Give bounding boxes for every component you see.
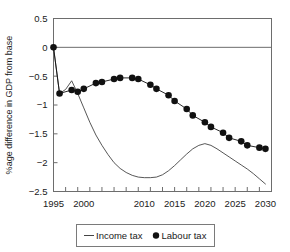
data-point-marker bbox=[99, 79, 106, 86]
data-point-marker bbox=[117, 75, 124, 82]
data-point-marker bbox=[183, 106, 190, 113]
data-point-marker bbox=[256, 144, 263, 151]
y-tick-label: −1 bbox=[37, 99, 48, 110]
legend-dot-icon bbox=[153, 232, 159, 238]
data-point-marker bbox=[129, 75, 136, 82]
data-point-marker bbox=[171, 98, 178, 105]
series-markers-labour-tax bbox=[50, 44, 269, 152]
series-line-labour-tax bbox=[54, 47, 266, 149]
data-point-marker bbox=[80, 86, 87, 93]
data-point-marker bbox=[165, 92, 172, 99]
legend-label-income-tax: Income tax bbox=[96, 230, 143, 241]
gdp-difference-line-chart: 0.50−0.5−1−1.5−2−2.5 1995200020102015202… bbox=[0, 0, 290, 252]
data-point-marker bbox=[74, 88, 81, 95]
x-tick-label: 2015 bbox=[164, 198, 185, 209]
x-tick-label: 2000 bbox=[73, 198, 94, 209]
data-point-marker bbox=[226, 135, 233, 142]
data-point-marker bbox=[50, 44, 57, 51]
data-point-marker bbox=[147, 82, 154, 89]
data-point-marker bbox=[238, 138, 245, 145]
plot-frame bbox=[54, 19, 272, 192]
x-tick-label: 2025 bbox=[225, 198, 246, 209]
data-point-marker bbox=[56, 90, 63, 97]
data-point-marker bbox=[244, 142, 251, 149]
data-point-marker bbox=[262, 146, 269, 153]
series-line-income-tax bbox=[54, 47, 266, 184]
data-point-marker bbox=[93, 80, 100, 87]
x-tick-label: 2010 bbox=[134, 198, 155, 209]
y-tick-label: 0.5 bbox=[34, 13, 47, 24]
y-tick-label: 0 bbox=[42, 42, 47, 53]
data-point-marker bbox=[68, 87, 75, 94]
x-tick-label: 2030 bbox=[255, 198, 276, 209]
y-axis-title: %age difference in GDP from base bbox=[4, 36, 14, 175]
y-tick-label: −0.5 bbox=[29, 71, 48, 82]
x-tick-label: 2020 bbox=[194, 198, 215, 209]
data-point-marker bbox=[202, 119, 209, 126]
data-point-marker bbox=[153, 86, 160, 93]
x-tick-label: 1995 bbox=[43, 198, 64, 209]
y-tick-label: −1.5 bbox=[29, 128, 48, 139]
data-point-marker bbox=[208, 124, 215, 131]
chart-legend: Income tax Labour tax bbox=[77, 225, 215, 247]
data-point-marker bbox=[135, 76, 142, 83]
y-tick-label: −2.5 bbox=[29, 186, 48, 197]
chart-figure: 0.50−0.5−1−1.5−2−2.5 1995200020102015202… bbox=[0, 0, 290, 252]
legend-label-labour-tax: Labour tax bbox=[162, 230, 207, 241]
x-axis: 1995200020102015202020252030 bbox=[43, 187, 276, 209]
data-point-marker bbox=[111, 76, 118, 83]
data-point-marker bbox=[220, 129, 227, 136]
data-point-marker bbox=[189, 112, 196, 119]
y-tick-label: −2 bbox=[37, 157, 48, 168]
